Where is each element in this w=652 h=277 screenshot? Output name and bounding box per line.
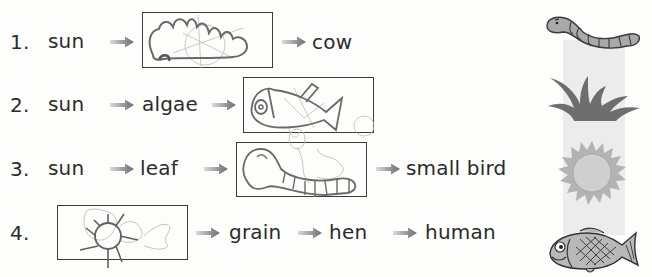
- arrow-icon: [393, 227, 417, 239]
- sun-sketch-icon: [58, 206, 189, 261]
- drawing-box-worm[interactable]: [236, 142, 367, 197]
- sun-icon[interactable]: [557, 139, 627, 207]
- row-number: 4.: [10, 221, 29, 245]
- chain-item-leaf: leaf: [140, 156, 178, 180]
- arrow-icon: [212, 99, 236, 111]
- arrow-icon: [376, 163, 400, 175]
- arrow-icon: [110, 36, 134, 48]
- chain-item-human: human: [425, 220, 496, 244]
- chain-item-hen: hen: [329, 220, 367, 244]
- fish-sketch-icon: [244, 78, 375, 134]
- chain-item-small-bird: small bird: [406, 156, 506, 180]
- fish-icon[interactable]: [546, 225, 642, 275]
- row-number: 1.: [10, 30, 29, 54]
- row-number: 2.: [10, 93, 29, 117]
- drawing-box-fish[interactable]: [243, 77, 374, 133]
- drawing-box-sun[interactable]: [57, 205, 188, 260]
- chain-item-algae: algae: [142, 92, 198, 116]
- arrow-icon: [204, 163, 228, 175]
- grass-icon[interactable]: [548, 74, 642, 122]
- grass-sketch-icon: [143, 13, 274, 69]
- arrow-icon: [110, 163, 134, 175]
- chain-item-sun: sun: [48, 92, 84, 116]
- chain-item-cow: cow: [312, 30, 352, 54]
- arrow-icon: [196, 227, 220, 239]
- worm-sketch-icon: [237, 143, 368, 198]
- chain-item-sun: sun: [48, 156, 84, 180]
- chain-item-grain: grain: [229, 220, 281, 244]
- chain-item-sun: sun: [48, 29, 84, 53]
- arrow-icon: [282, 36, 306, 48]
- arrow-icon: [110, 99, 134, 111]
- arrow-icon: [298, 227, 322, 239]
- row-number: 3.: [10, 157, 29, 181]
- worm-icon[interactable]: [543, 12, 643, 52]
- drawing-box-grass[interactable]: [142, 12, 273, 68]
